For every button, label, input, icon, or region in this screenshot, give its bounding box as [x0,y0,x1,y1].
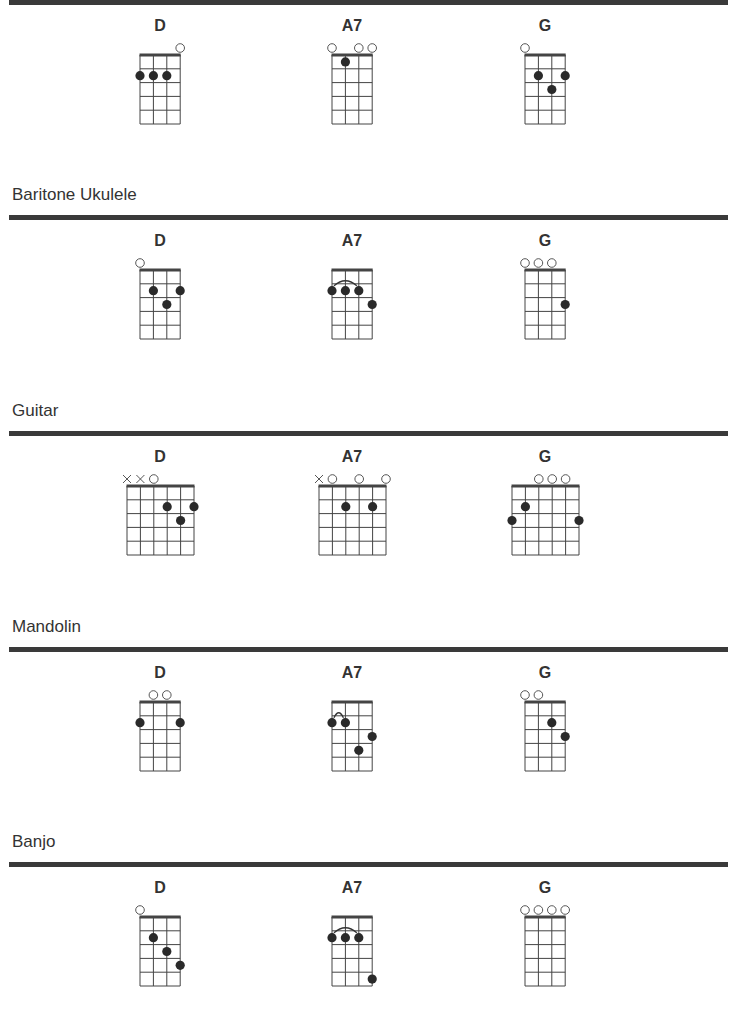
open-string-icon [521,44,530,53]
chord-name: D [120,879,200,897]
finger-dot-icon [507,516,516,525]
finger-dot-icon [341,933,350,942]
finger-dot-icon [341,502,350,511]
finger-dot-icon [149,286,158,295]
chord-name: G [505,232,585,250]
finger-dot-icon [327,933,336,942]
section-title: Guitar [12,401,58,421]
section-title: Banjo [12,832,55,852]
barre-arc-icon [334,713,343,718]
open-string-icon [328,475,337,484]
finger-dot-icon [162,71,171,80]
finger-dot-icon [367,975,376,984]
open-string-icon [354,44,363,53]
finger-dot-icon [341,57,350,66]
chord-name: D [120,232,200,250]
finger-dot-icon [189,502,198,511]
muted-string-icon [315,475,323,483]
finger-dot-icon [327,286,336,295]
chord-name: G [505,664,585,682]
open-string-icon [521,691,530,700]
open-string-icon [149,691,158,700]
section-divider [9,0,728,5]
chord-diagram [322,250,382,349]
chord-diagram [515,897,575,996]
open-string-icon [521,906,530,915]
chord-diagram [309,466,396,565]
chord-name: G [505,17,585,35]
finger-dot-icon [547,85,556,94]
chord-diagram [322,35,382,134]
chord-name: A7 [312,17,392,35]
finger-dot-icon [135,718,144,727]
chord-name: D [120,448,200,466]
finger-dot-icon [367,300,376,309]
open-string-icon [534,906,543,915]
section-divider [9,862,728,867]
finger-dot-icon [354,286,363,295]
muted-string-icon [136,475,144,483]
finger-dot-icon [175,718,184,727]
finger-dot-icon [354,933,363,942]
chord-name: A7 [312,448,392,466]
finger-dot-icon [162,947,171,956]
chord-diagram [130,35,190,134]
open-string-icon [547,259,556,268]
chord-name: A7 [312,232,392,250]
section-divider [9,431,728,436]
finger-dot-icon [367,732,376,741]
open-string-icon [547,906,556,915]
chord-diagram [322,682,382,781]
finger-dot-icon [162,502,171,511]
open-string-icon [328,44,337,53]
finger-dot-icon [574,516,583,525]
finger-dot-icon [135,71,144,80]
open-string-icon [149,475,158,484]
open-string-icon [534,475,543,484]
open-string-icon [561,475,570,484]
finger-dot-icon [176,516,185,525]
open-string-icon [136,259,145,268]
open-string-icon [136,906,145,915]
chord-name: G [505,448,585,466]
finger-dot-icon [560,300,569,309]
chord-name: D [120,664,200,682]
open-string-icon [547,475,556,484]
open-string-icon [162,691,171,700]
open-string-icon [176,44,185,53]
section-title: Mandolin [12,617,81,637]
finger-dot-icon [149,933,158,942]
finger-dot-icon [547,718,556,727]
chord-name: G [505,879,585,897]
open-string-icon [561,906,570,915]
finger-dot-icon [149,71,158,80]
chord-diagram [117,466,204,565]
finger-dot-icon [560,732,569,741]
open-string-icon [534,691,543,700]
finger-dot-icon [175,286,184,295]
chord-diagram [515,682,575,781]
chord-name: A7 [312,879,392,897]
section-title: Baritone Ukulele [12,185,137,205]
finger-dot-icon [341,286,350,295]
chord-diagram [130,250,190,349]
section-divider [9,215,728,220]
finger-dot-icon [560,71,569,80]
chord-name: A7 [312,664,392,682]
open-string-icon [354,475,363,484]
muted-string-icon [123,475,131,483]
chord-diagram [502,466,589,565]
finger-dot-icon [327,718,336,727]
chord-diagram [515,35,575,134]
chord-diagram [130,897,190,996]
finger-dot-icon [368,502,377,511]
chord-diagram [515,250,575,349]
chord-diagram [130,682,190,781]
finger-dot-icon [520,502,529,511]
finger-dot-icon [341,718,350,727]
finger-dot-icon [175,961,184,970]
finger-dot-icon [534,71,543,80]
open-string-icon [534,259,543,268]
chord-diagram [322,897,382,996]
finger-dot-icon [354,746,363,755]
